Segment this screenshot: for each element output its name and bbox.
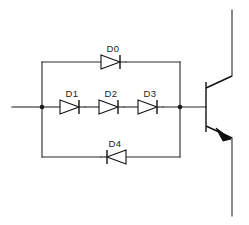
- diode-d1-label: D1: [66, 88, 79, 99]
- transistor-emitter-arrow: [216, 128, 231, 141]
- diode-d3[interactable]: D3: [138, 88, 163, 114]
- node-dot-right: [178, 105, 183, 110]
- diode-d0-label: D0: [107, 43, 120, 54]
- transistor-collector-diagonal: [206, 76, 232, 88]
- schematic-canvas: D0 D1 D2 D3 D4: [0, 0, 249, 225]
- circuit-schematic-svg: D0 D1 D2 D3 D4: [0, 0, 249, 225]
- diode-d2-label: D2: [105, 88, 118, 99]
- npn-transistor[interactable]: [206, 10, 232, 216]
- diode-d4[interactable]: D4: [101, 138, 126, 164]
- diode-d3-triangle: [138, 100, 157, 114]
- diode-d3-label: D3: [144, 88, 157, 99]
- diode-d1-triangle: [60, 100, 79, 114]
- diode-d0[interactable]: D0: [101, 43, 126, 69]
- diode-d4-triangle: [107, 150, 126, 164]
- node-dot-left: [40, 105, 45, 110]
- diode-d2-triangle: [99, 100, 118, 114]
- diode-d2[interactable]: D2: [99, 88, 124, 114]
- diode-d4-label: D4: [109, 138, 122, 149]
- diode-d1[interactable]: D1: [60, 88, 85, 114]
- diode-d0-triangle: [101, 55, 120, 69]
